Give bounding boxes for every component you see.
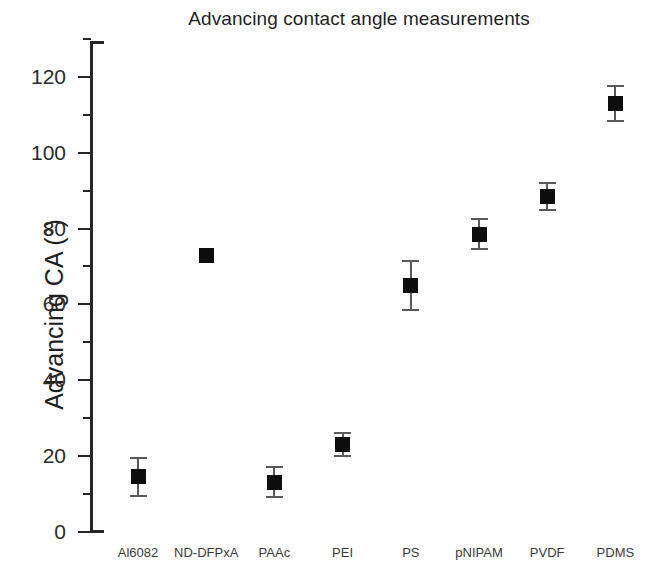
data-point-marker [472, 227, 487, 242]
error-bar-cap-lower [471, 248, 488, 250]
data-point-marker [335, 437, 350, 452]
error-bar-cap-lower [130, 495, 147, 497]
error-bar-cap-upper [471, 218, 488, 220]
y-tick-major [78, 455, 91, 457]
data-point-marker [403, 278, 418, 293]
error-bar-cap-lower [607, 120, 624, 122]
chart-title: Advancing contact angle measurements [0, 8, 648, 30]
y-tick-label: 0 [0, 521, 66, 542]
error-bar-cap-lower [402, 309, 419, 311]
y-tick-major [78, 152, 91, 154]
y-tick-minor [83, 114, 91, 116]
data-point-marker [608, 96, 623, 111]
y-tick-minor [83, 190, 91, 192]
error-bar-cap-upper [334, 432, 351, 434]
y-axis-top-cap [90, 41, 104, 44]
y-tick-major [78, 228, 91, 230]
y-tick-label: 20 [0, 445, 66, 466]
y-tick-label: 60 [0, 293, 66, 314]
error-bar-cap-upper [402, 260, 419, 262]
y-tick-major [78, 379, 91, 381]
y-tick-minor [83, 265, 91, 267]
y-tick-minor [83, 38, 91, 40]
error-bar-cap-lower [539, 209, 556, 211]
y-tick-minor [83, 341, 91, 343]
data-point-marker [540, 189, 555, 204]
data-point-marker [199, 248, 214, 263]
y-tick-label: 100 [0, 142, 66, 163]
y-tick-major [78, 303, 91, 305]
y-tick-minor [83, 493, 91, 495]
error-bar-cap-lower [266, 496, 283, 498]
y-tick-major [78, 531, 91, 533]
y-tick-label: 40 [0, 369, 66, 390]
error-bar-cap-upper [539, 182, 556, 184]
y-tick-label: 120 [0, 66, 66, 87]
error-bar-cap-upper [266, 466, 283, 468]
contact-angle-chart-figure: Advancing contact angle measurements Adv… [0, 0, 648, 567]
y-tick-minor [83, 417, 91, 419]
data-point-marker [267, 475, 282, 490]
error-bar-cap-upper [130, 457, 147, 459]
data-point-marker [131, 469, 146, 484]
x-axis-label-pdms: PDMS [555, 545, 648, 560]
y-tick-label: 80 [0, 218, 66, 239]
y-tick-major [78, 76, 91, 78]
error-bar-cap-lower [334, 455, 351, 457]
error-bar-cap-upper [607, 85, 624, 87]
x-axis-origin-cap [90, 530, 104, 533]
